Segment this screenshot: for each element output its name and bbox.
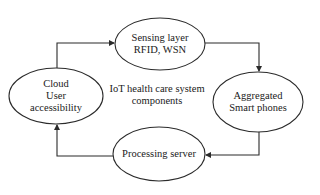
label-line: Smart phones	[229, 102, 286, 114]
label-sensing-layer: Sensing layer RFID, WSN	[132, 32, 189, 56]
label-line: Sensing layer	[132, 32, 189, 44]
diagram-title: IoT health care system components	[109, 83, 204, 107]
title-line: IoT health care system	[109, 83, 204, 95]
label-cloud: Cloud User accessibility	[30, 78, 82, 114]
label-line: Cloud	[30, 78, 82, 90]
title-line: components	[109, 95, 204, 107]
edge-processing-to-cloud	[57, 125, 113, 156]
label-line: accessibility	[30, 102, 82, 114]
label-line: Aggregated	[229, 90, 286, 102]
label-aggregated-smartphones: Aggregated Smart phones	[229, 90, 286, 114]
edge-sensing-to-aggregated	[205, 43, 259, 71]
label-processing-server: Processing server	[122, 148, 196, 160]
label-line: User	[30, 90, 82, 102]
label-line: RFID, WSN	[132, 44, 189, 56]
label-line: Processing server	[122, 148, 196, 160]
edge-aggregated-to-processing	[206, 132, 259, 155]
edge-cloud-to-sensing	[57, 43, 114, 68]
